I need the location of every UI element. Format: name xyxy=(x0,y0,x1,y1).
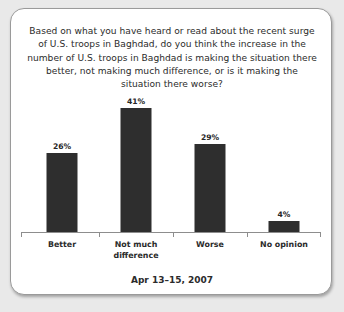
x-axis-label-worse: Worse xyxy=(173,240,247,251)
x-axis-tick xyxy=(99,233,100,237)
x-axis-tick xyxy=(320,233,321,237)
bar-value-better: 26% xyxy=(53,142,71,151)
bar-group-worse: 29% xyxy=(173,95,247,233)
x-axis-tick xyxy=(21,233,22,237)
bar-group-no-opinion: 4% xyxy=(247,95,321,233)
poll-chart-card: Based on what you have heard or read abo… xyxy=(10,8,332,295)
bar-chart-plot-area: 26% 41% 29% 4% xyxy=(25,95,321,233)
bar-group-not-much-difference: 41% xyxy=(99,95,173,233)
bar-worse xyxy=(195,144,226,233)
x-axis-tick xyxy=(173,233,174,237)
bar-value-not-much-difference: 41% xyxy=(127,97,145,106)
bar-group-better: 26% xyxy=(25,95,99,233)
x-axis-label-no-opinion: No opinion xyxy=(247,240,321,251)
x-axis-baseline xyxy=(21,232,321,233)
bar-better xyxy=(47,153,78,233)
x-axis-category-labels: Better Not much difference Worse No opin… xyxy=(25,240,321,270)
x-axis-label-better: Better xyxy=(25,240,99,251)
x-axis-label-not-much-difference: Not much difference xyxy=(99,240,173,261)
bar-value-worse: 29% xyxy=(201,133,219,142)
survey-date-footer: Apr 13–15, 2007 xyxy=(25,275,319,285)
bar-not-much-difference xyxy=(121,108,152,233)
chart-question-title: Based on what you have heard or read abo… xyxy=(25,25,319,91)
bar-value-no-opinion: 4% xyxy=(278,210,291,219)
x-axis-tick xyxy=(247,233,248,237)
